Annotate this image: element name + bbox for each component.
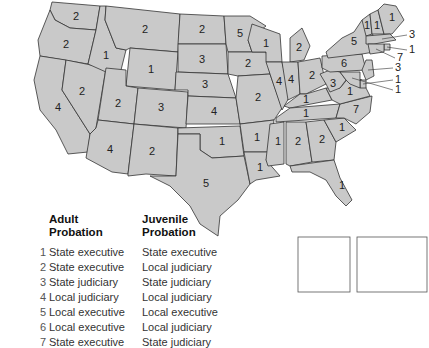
state-label-oh: 2 bbox=[309, 69, 315, 81]
juvenile-header: Juvenile Probation bbox=[142, 213, 196, 239]
legend-number: 3 bbox=[36, 275, 46, 289]
state-label-nm: 2 bbox=[149, 145, 155, 157]
state-label-mi: 2 bbox=[296, 41, 302, 53]
state-label-tn: 1 bbox=[303, 107, 309, 119]
state-label-ks: 4 bbox=[211, 105, 217, 117]
state-label-ny: 5 bbox=[351, 35, 357, 47]
hawaii-inset bbox=[298, 237, 350, 292]
state-label-wa: 2 bbox=[73, 10, 79, 22]
state-label-nv: 2 bbox=[79, 85, 85, 97]
state-label-ky: 1 bbox=[303, 93, 309, 105]
juvenile-header-line2: Probation bbox=[142, 226, 196, 239]
state-label-ne: 3 bbox=[202, 78, 208, 90]
adult-probation-agency: State judiciary bbox=[49, 275, 118, 289]
state-label-ca: 4 bbox=[55, 101, 61, 113]
state-label-ut: 2 bbox=[115, 97, 121, 109]
state-label-mo: 2 bbox=[255, 91, 261, 103]
state-label-nc: 7 bbox=[353, 103, 359, 115]
state-label-in: 4 bbox=[288, 73, 294, 85]
state-label-al: 2 bbox=[295, 135, 301, 147]
state-label-ar: 1 bbox=[254, 131, 260, 143]
state-label-nh: 1 bbox=[374, 19, 380, 31]
state-label-or: 2 bbox=[63, 38, 69, 50]
state-label-tx: 5 bbox=[203, 177, 209, 189]
state-label-ma: 3 bbox=[409, 28, 415, 40]
juvenile-probation-agency: Local executive bbox=[142, 305, 218, 319]
state-ma bbox=[366, 34, 396, 44]
juvenile-probation-agency: State judiciary bbox=[142, 335, 211, 348]
adult-probation-agency: Local judiciary bbox=[49, 290, 119, 304]
state-label-ga: 2 bbox=[319, 133, 325, 145]
juvenile-probation-agency: Local judiciary bbox=[142, 260, 212, 274]
state-label-ia: 2 bbox=[245, 57, 251, 69]
juvenile-probation-agency: State judiciary bbox=[142, 275, 211, 289]
state-label-pa: 6 bbox=[341, 57, 347, 69]
state-label-ok: 1 bbox=[219, 135, 225, 147]
state-label-nj: 3 bbox=[395, 61, 401, 73]
state-label-id: 1 bbox=[103, 49, 109, 61]
legend-number: 6 bbox=[36, 320, 46, 334]
state-label-co: 3 bbox=[158, 101, 164, 113]
state-label-nd: 2 bbox=[199, 23, 205, 35]
state-label-sc: 1 bbox=[339, 121, 345, 133]
state-label-wv: 3 bbox=[330, 77, 336, 89]
juvenile-probation-agency: State executive bbox=[142, 245, 217, 259]
state-label-wi: 1 bbox=[263, 37, 269, 49]
state-label-la: 1 bbox=[257, 161, 263, 173]
adult-probation-agency: State executive bbox=[49, 260, 124, 274]
state-label-fl: 1 bbox=[339, 179, 345, 191]
state-label-sd: 3 bbox=[199, 53, 205, 65]
adult-probation-agency: State executive bbox=[49, 335, 124, 348]
alaska-inset bbox=[357, 237, 427, 292]
state-label-vt: 1 bbox=[364, 19, 370, 31]
legend-number: 1 bbox=[36, 245, 46, 259]
state-label-mn: 5 bbox=[237, 27, 243, 39]
state-label-wy: 1 bbox=[148, 63, 154, 75]
state-label-me: 1 bbox=[389, 11, 395, 23]
state-label-va: 1 bbox=[347, 85, 353, 97]
adult-probation-agency: State executive bbox=[49, 245, 124, 259]
legend-number: 2 bbox=[36, 260, 46, 274]
adult-header-line2: Probation bbox=[49, 226, 103, 239]
juvenile-probation-agency: Local judiciary bbox=[142, 290, 212, 304]
legend-number: 7 bbox=[36, 335, 46, 348]
legend-number: 5 bbox=[36, 305, 46, 319]
state-label-az: 4 bbox=[107, 143, 113, 155]
adult-header-line1: Adult bbox=[49, 213, 103, 226]
juvenile-probation-agency: Local judiciary bbox=[142, 320, 212, 334]
legend-number: 4 bbox=[36, 290, 46, 304]
adult-header: Adult Probation bbox=[49, 213, 103, 239]
state-label-mt: 2 bbox=[142, 23, 148, 35]
adult-probation-agency: Local executive bbox=[49, 305, 125, 319]
state-label-ms: 1 bbox=[275, 135, 281, 147]
state-label-il: 4 bbox=[276, 75, 282, 87]
state-label-md: 1 bbox=[395, 83, 401, 95]
juvenile-header-line1: Juvenile bbox=[142, 213, 196, 226]
state-label-ri: 1 bbox=[409, 43, 415, 55]
leader-line-de bbox=[363, 80, 393, 84]
adult-probation-agency: Local executive bbox=[49, 320, 125, 334]
